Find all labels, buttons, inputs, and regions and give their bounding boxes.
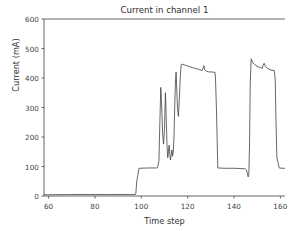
- y-tick-label: 0: [10, 192, 39, 201]
- x-tick-label: 100: [134, 202, 148, 211]
- x-axis-label: Time step: [44, 216, 285, 226]
- x-tick-label: 80: [90, 202, 99, 211]
- plot-area: [0, 0, 307, 231]
- x-tick-label: 160: [273, 202, 287, 211]
- y-tick-label: 100: [10, 162, 39, 171]
- figure-canvas: Current in channel 1 6080100120140160010…: [0, 0, 307, 231]
- y-tick-label: 200: [10, 133, 39, 142]
- x-tick-label: 140: [227, 202, 241, 211]
- x-tick-label: 120: [181, 202, 195, 211]
- y-axis-label: Current (mA): [11, 5, 21, 125]
- x-tick-label: 60: [44, 202, 53, 211]
